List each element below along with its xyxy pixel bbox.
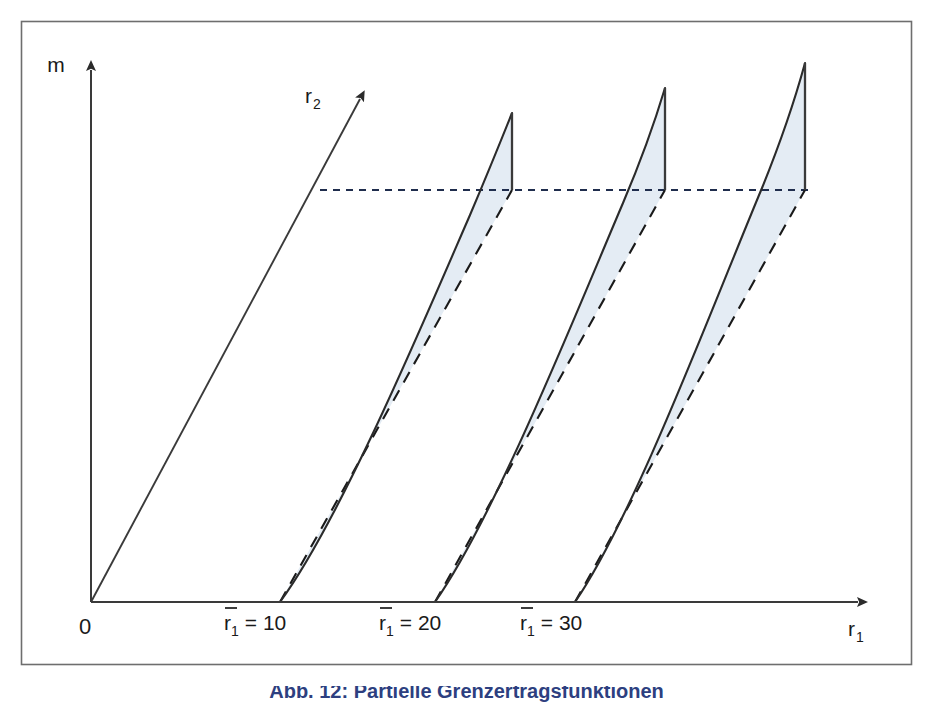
tick-3-sub: 1 (527, 623, 535, 639)
tick-1-value: = 10 (245, 611, 286, 634)
tick-3-value: = 30 (541, 611, 582, 634)
r2-axis-label-main: r (305, 84, 312, 107)
origin-label: 0 (79, 614, 91, 639)
tick-3-r: r (520, 611, 527, 634)
figure-root: m r2 r1 0 r1= 10 r1= 20 (0, 0, 933, 702)
tick-1-sub: 1 (231, 623, 239, 639)
figure-caption-bar: Abb. 12: Partielle Grenzertragsfunktione… (0, 686, 933, 702)
tick-2-r: r (379, 611, 386, 634)
figure-caption: Abb. 12: Partielle Grenzertragsfunktione… (0, 686, 933, 702)
tick-2-sub: 1 (386, 623, 394, 639)
tick-2-value: = 20 (400, 611, 441, 634)
r2-axis-label-sub: 2 (313, 96, 321, 112)
partial-yield-function-diagram: m r2 r1 0 r1= 10 r1= 20 (0, 0, 933, 702)
tick-1-r: r (224, 611, 231, 634)
figure-frame (22, 22, 912, 665)
r1-axis-label-main: r (848, 617, 855, 640)
r1-axis-label-sub: 1 (856, 629, 864, 645)
m-axis-label: m (47, 53, 65, 76)
